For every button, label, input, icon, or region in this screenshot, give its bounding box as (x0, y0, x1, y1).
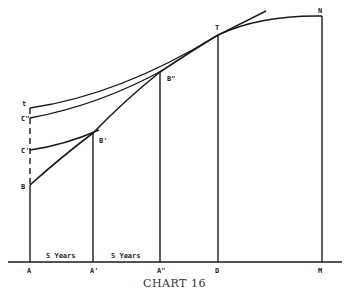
label-B: B (21, 183, 25, 191)
label-T: T (215, 24, 219, 32)
label-A1: A' (90, 267, 98, 275)
label-N: N (318, 7, 322, 15)
label-B2: B" (167, 75, 175, 83)
growth-curve (30, 16, 322, 185)
tangent-curve-C2 (30, 69, 165, 118)
interval-label-1: 5 Years (46, 252, 76, 260)
label-A: A (27, 267, 32, 275)
label-B1: B' (99, 137, 107, 145)
label-C2: C" (21, 115, 29, 123)
label-M: M (318, 267, 322, 275)
label-C1: C' (21, 147, 29, 155)
interval-label-2: 5 Years (111, 252, 141, 260)
label-t: t (22, 100, 26, 108)
chart-16-diagram: t C" C' B B' B" T N A A' A" D M 5 Years … (0, 0, 349, 295)
label-D: D (215, 267, 219, 275)
tangent-curve-t (30, 11, 266, 108)
tangent-curve-C1 (30, 130, 99, 150)
label-A2: A" (157, 267, 165, 275)
chart-caption: CHART 16 (0, 277, 349, 290)
